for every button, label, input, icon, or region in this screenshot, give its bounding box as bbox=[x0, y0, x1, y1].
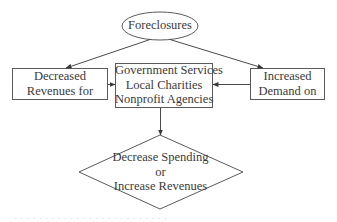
faint-caption: · · · · · · · · · · · · · · · · · · · · … bbox=[14, 213, 167, 222]
decreased-revenues-line-2: Revenues for bbox=[12, 84, 108, 99]
decreased-revenues-label: Decreased Revenues for bbox=[12, 69, 108, 99]
foreclosures-text: Foreclosures bbox=[122, 18, 198, 33]
agencies-label: Government Services Local Charities Nonp… bbox=[115, 63, 213, 107]
decreased-revenues-line-1: Decreased bbox=[12, 69, 108, 84]
increased-demand-label: Increased Demand on bbox=[250, 69, 325, 99]
agencies-line-3: Nonprofit Agencies bbox=[115, 92, 213, 107]
foreclosures-label: Foreclosures bbox=[122, 18, 198, 33]
decision-line-1: Decrease Spending bbox=[100, 150, 221, 165]
agencies-line-2: Local Charities bbox=[115, 78, 213, 93]
increased-demand-line-1: Increased bbox=[250, 69, 325, 84]
decision-label: Decrease Spending or Increase Revenues bbox=[100, 150, 221, 194]
increased-demand-line-2: Demand on bbox=[250, 84, 325, 99]
decision-line-3: Increase Revenues bbox=[100, 179, 221, 194]
decision-line-2: or bbox=[100, 165, 221, 180]
agencies-line-1: Government Services bbox=[115, 63, 213, 78]
